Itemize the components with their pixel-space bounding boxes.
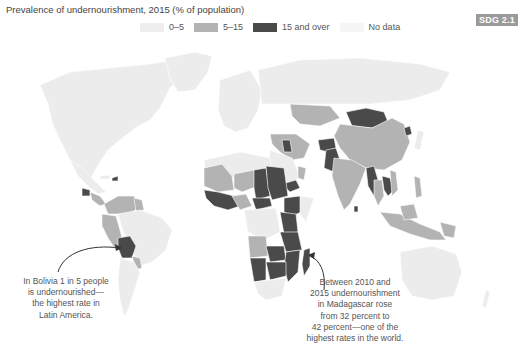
legend-label-high: 15 and over xyxy=(282,22,330,32)
legend-swatch-high xyxy=(253,23,277,32)
region-north-america xyxy=(40,60,190,180)
region-botswana-zimbabwe xyxy=(266,262,286,280)
region-south-africa xyxy=(254,278,286,300)
annotation-line: from 32 percent to xyxy=(290,311,420,322)
annotation-line: Between 2010 and xyxy=(290,277,420,288)
annotation-line: in Madagascar rose xyxy=(290,299,420,310)
bolivia-arrow xyxy=(58,247,120,272)
region-new-zealand xyxy=(482,290,490,308)
region-guatemala xyxy=(82,188,90,196)
region-russia xyxy=(258,58,450,104)
annotation-line: Latin America. xyxy=(6,310,126,321)
legend-item-low: 0–5 xyxy=(140,22,184,32)
legend-item-nodata: No data xyxy=(340,22,401,32)
region-somalia xyxy=(300,196,314,222)
annotation-line: In Bolivia 1 in 5 people xyxy=(6,276,126,287)
region-europe xyxy=(218,70,262,132)
legend-item-mid: 5–15 xyxy=(194,22,243,32)
annotation-line: highest rates in the world. xyxy=(290,333,420,344)
annotation-line: 42 percent—one of the xyxy=(290,322,420,333)
legend-label-low: 0–5 xyxy=(169,22,184,32)
region-caribbean xyxy=(100,175,110,179)
region-kazakhstan-central-asia xyxy=(290,104,340,126)
region-oman xyxy=(298,166,306,180)
madagascar-annotation: Between 2010 and 2015 undernourishment i… xyxy=(290,277,420,344)
region-madagascar xyxy=(302,248,310,276)
annotation-line: is undernourished— xyxy=(6,287,126,298)
region-central-africa xyxy=(244,208,280,240)
region-philippines xyxy=(414,176,422,198)
sdg-badge: SDG 2.1 xyxy=(476,14,518,26)
bolivia-annotation: In Bolivia 1 in 5 people is undernourish… xyxy=(6,276,126,321)
region-iraq xyxy=(282,140,292,152)
legend-swatch-mid xyxy=(194,23,218,32)
region-india xyxy=(332,158,366,210)
map-title: Prevalence of undernourishment, 2015 (% … xyxy=(6,4,244,15)
region-sri-lanka xyxy=(354,206,358,212)
region-japan xyxy=(414,130,424,150)
region-uganda-kenya xyxy=(280,212,298,234)
legend-swatch-low xyxy=(140,23,164,32)
region-zambia xyxy=(266,246,286,262)
region-namibia xyxy=(250,258,266,282)
legend: 0–5 5–15 15 and over No data xyxy=(140,22,410,32)
region-angola xyxy=(248,236,268,258)
region-thailand xyxy=(374,180,384,206)
legend-label-mid: 5–15 xyxy=(223,22,243,32)
legend-label-nodata: No data xyxy=(369,22,401,32)
annotation-line: 2015 undernourishment xyxy=(290,288,420,299)
region-haiti xyxy=(112,176,118,181)
legend-item-high: 15 and over xyxy=(253,22,330,32)
annotation-line: the highest rate in xyxy=(6,298,126,309)
legend-swatch-nodata xyxy=(340,23,364,32)
